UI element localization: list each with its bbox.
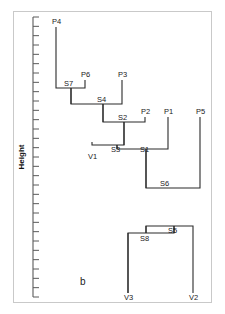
node-label-s1: S1 bbox=[140, 145, 149, 154]
leaf-label-v2: V2 bbox=[189, 293, 198, 302]
leaf-label-p3: P3 bbox=[118, 70, 127, 79]
dendrogram-canvas: S7S4S2S3S1S6S5S8 P4P6P3P2P1P5V1V3V2 Heig… bbox=[0, 0, 225, 314]
height-axis bbox=[33, 17, 39, 297]
dendrogram-figure: S7S4S2S3S1S6S5S8 P4P6P3P2P1P5V1V3V2 Heig… bbox=[0, 0, 225, 314]
node-label-s2: S2 bbox=[118, 113, 127, 122]
node-label-s3: S3 bbox=[111, 145, 120, 154]
leaf-label-p1: P1 bbox=[164, 107, 173, 116]
leaf-label-p5: P5 bbox=[196, 107, 205, 116]
panel-letter: b bbox=[80, 276, 86, 287]
leaf-label-p4: P4 bbox=[52, 17, 61, 26]
leaf-label-v3: V3 bbox=[124, 293, 133, 302]
leaf-label-p6: P6 bbox=[81, 70, 90, 79]
node-label-s4: S4 bbox=[97, 95, 106, 104]
node-label-s7: S7 bbox=[64, 79, 73, 88]
tree-merge-link-s3 bbox=[92, 122, 124, 145]
node-label-s6: S6 bbox=[160, 179, 169, 188]
tree-merge-link-s6 bbox=[146, 117, 200, 188]
leaf-label-p2: P2 bbox=[141, 107, 150, 116]
node-label-s8: S8 bbox=[140, 234, 149, 243]
leaf-label-group: P4P6P3P2P1P5V1V3V2 bbox=[52, 17, 205, 302]
figure-frame bbox=[14, 12, 212, 303]
axis-title: Height bbox=[17, 144, 26, 169]
leaf-label-v1: V1 bbox=[88, 152, 97, 161]
tree-link-group bbox=[56, 27, 200, 293]
axis-tick-group bbox=[33, 17, 39, 297]
node-label-s5: S5 bbox=[168, 226, 177, 235]
tree-merge-link-s8 bbox=[128, 226, 174, 293]
